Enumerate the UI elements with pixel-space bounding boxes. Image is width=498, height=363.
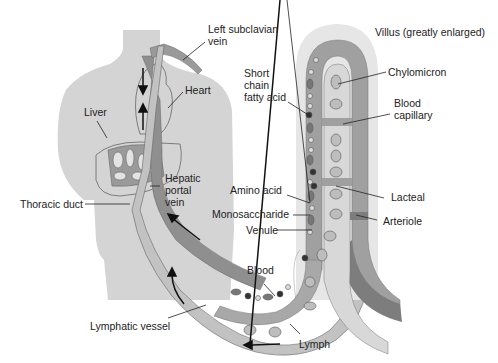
label-monosaccharide: Monosaccharide bbox=[212, 208, 289, 220]
label-lymph: Lymph bbox=[299, 338, 330, 350]
label-villus: Villus (greatly enlarged) bbox=[375, 26, 485, 38]
label-blood: Blood bbox=[247, 264, 274, 276]
label-thoracic-duct: Thoracic duct bbox=[20, 198, 83, 210]
label-venule: Venule bbox=[246, 224, 278, 236]
label-blood-capillary: Blood capillary bbox=[394, 97, 433, 121]
label-amino-acid: Amino acid bbox=[230, 184, 282, 196]
intestinal-absorption-diagram bbox=[0, 0, 498, 363]
label-lacteal: Lacteal bbox=[391, 191, 425, 203]
label-heart: Heart bbox=[185, 84, 211, 96]
label-lymphatic-vessel: Lymphatic vessel bbox=[90, 320, 170, 332]
label-left-subclavian-vein: Left subclavian vein bbox=[208, 23, 278, 47]
label-short-chain-fatty-acid: Short chain fatty acid bbox=[244, 67, 286, 103]
label-liver: Liver bbox=[84, 106, 107, 118]
label-arteriole: Arteriole bbox=[383, 215, 422, 227]
label-hepatic-portal-vein: Hepatic portal vein bbox=[165, 172, 201, 208]
label-chylomicron: Chylomicron bbox=[388, 66, 446, 78]
